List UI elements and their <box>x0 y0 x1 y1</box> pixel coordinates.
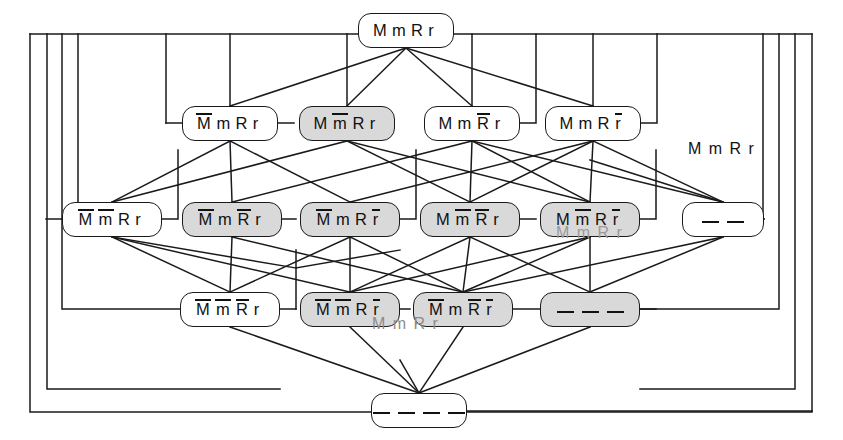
lattice-node-n2_1[interactable]: M m R r <box>62 202 162 237</box>
lattice-node-n1_3[interactable]: M m R r <box>424 106 520 141</box>
allele-r: r <box>493 210 500 229</box>
allele-R: R <box>598 114 611 133</box>
allele-R-bar: R <box>475 210 489 229</box>
allele-M: M <box>559 114 574 133</box>
allele-m: m <box>448 300 463 319</box>
allele-m: m <box>216 114 231 133</box>
lattice-node-n2_6[interactable] <box>682 202 764 237</box>
allele-R-bar: R <box>468 300 482 319</box>
dash-mark <box>423 412 440 414</box>
lattice-node-n0[interactable]: M m R r <box>358 13 454 48</box>
lattice-node-n2_3[interactable]: M m R r <box>300 202 400 237</box>
allele-m: m <box>578 114 593 133</box>
allele-M: M <box>373 21 388 40</box>
lattice-node-n4_1[interactable] <box>371 393 467 428</box>
allele-m-bar: m <box>332 114 348 133</box>
dash-mark <box>582 311 599 313</box>
allele-r-bar: r <box>486 300 494 319</box>
allele-M: M <box>436 210 451 229</box>
allele-r: r <box>254 300 261 319</box>
allele-m: m <box>457 114 472 133</box>
ghost-label-row4: M m R r <box>372 315 439 333</box>
lattice-diagram: M m R r M m R r M m R r M m R r M m R r … <box>0 0 843 440</box>
lattice-node-n1_4[interactable]: M m R r <box>545 106 641 141</box>
allele-m-bar: m <box>98 210 114 229</box>
allele-r: r <box>495 114 502 133</box>
lattice-node-n1_2[interactable]: M m R r <box>299 106 395 141</box>
node-dashes <box>369 401 469 420</box>
allele-m-bar: m <box>335 300 351 319</box>
allele-M-bar: M <box>198 210 214 229</box>
allele-M-bar: M <box>78 210 94 229</box>
dash-mark <box>398 412 415 414</box>
node-dashes <box>698 210 748 229</box>
allele-M-bar: M <box>196 114 212 133</box>
allele-R: R <box>411 21 424 40</box>
lattice-node-n2_4[interactable]: M m R r <box>420 202 520 237</box>
allele-M: M <box>438 114 453 133</box>
allele-R-bar: R <box>477 114 491 133</box>
allele-m-bar: m <box>455 210 471 229</box>
ghost-label-row3: M m R r <box>556 224 623 242</box>
allele-R: R <box>353 114 366 133</box>
node-dashes <box>553 300 628 319</box>
allele-M: M <box>313 114 328 133</box>
allele-m: m <box>336 210 351 229</box>
lattice-node-n2_2[interactable]: M m R r <box>182 202 282 237</box>
right-annotation-label: M m R r <box>688 140 755 158</box>
dash-mark <box>607 311 624 313</box>
allele-r: r <box>370 114 377 133</box>
allele-r-bar: r <box>615 114 623 133</box>
allele-M-bar: M <box>315 300 331 319</box>
allele-R-bar: R <box>236 300 250 319</box>
allele-M-bar: M <box>316 210 332 229</box>
dash-mark <box>448 412 465 414</box>
dash-mark <box>702 221 719 223</box>
allele-r: r <box>253 114 260 133</box>
allele-m: m <box>392 21 407 40</box>
dash-mark <box>727 221 744 223</box>
allele-r-bar: r <box>372 210 380 229</box>
allele-M-bar: M <box>195 300 211 319</box>
allele-m-bar: m <box>215 300 231 319</box>
dash-mark <box>373 412 390 414</box>
lattice-node-n3_1[interactable]: M m R r <box>180 292 280 327</box>
allele-R-bar: R <box>237 210 251 229</box>
allele-R: R <box>118 210 131 229</box>
lattice-node-n3_4[interactable] <box>540 292 640 327</box>
dash-mark <box>557 311 574 313</box>
allele-R: R <box>236 114 249 133</box>
allele-r: r <box>255 210 262 229</box>
allele-r: r <box>135 210 142 229</box>
allele-R: R <box>355 210 368 229</box>
allele-r: r <box>428 21 435 40</box>
allele-m: m <box>218 210 233 229</box>
lattice-node-n1_1[interactable]: M m R r <box>182 106 278 141</box>
allele-R: R <box>356 300 369 319</box>
